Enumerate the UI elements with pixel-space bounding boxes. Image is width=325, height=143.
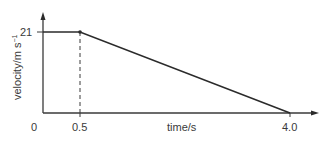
x-axis-arrow-icon	[311, 111, 319, 116]
x-tick-label-4.0: 4.0	[282, 121, 297, 133]
velocity-time-graph: 21 0 0.5 4.0 time/s velocity/m s−1	[0, 0, 325, 143]
y-axis-label-superscript: −1	[11, 34, 18, 42]
svg-text:velocity/m s−1: velocity/m s−1	[11, 34, 23, 100]
y-axis-arrow-icon	[41, 12, 46, 20]
data-point-0.5	[78, 30, 82, 34]
velocity-line	[43, 32, 290, 113]
origin-label: 0	[31, 121, 37, 133]
y-axis-label: velocity/m s−1	[11, 34, 23, 100]
x-axis-label: time/s	[167, 121, 197, 133]
y-axis-label-main: velocity/m s	[11, 42, 23, 100]
y-tick-label-21: 21	[20, 26, 32, 38]
x-tick-label-0.5: 0.5	[72, 121, 87, 133]
